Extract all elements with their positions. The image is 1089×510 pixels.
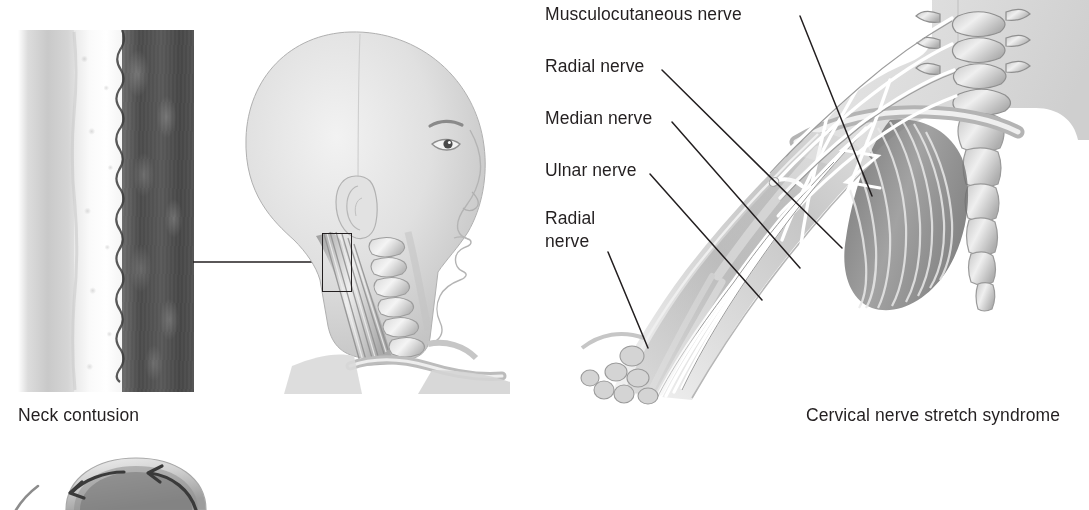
leader-radial-upper bbox=[662, 70, 842, 248]
label-musculocutaneous-nerve: Musculocutaneous nerve bbox=[545, 3, 742, 26]
label-radial-nerve-upper: Radial nerve bbox=[545, 55, 644, 78]
label-median-nerve: Median nerve bbox=[545, 107, 652, 130]
leader-musculocutaneous bbox=[800, 16, 872, 196]
label-radial-nerve-lower: Radial nerve bbox=[545, 207, 595, 254]
helmet-dome bbox=[66, 458, 206, 510]
helmet-rotation-figure bbox=[0, 452, 300, 510]
leader-ulnar bbox=[650, 174, 762, 300]
leader-radial-lower bbox=[608, 252, 648, 348]
label-ulnar-nerve: Ulnar nerve bbox=[545, 159, 637, 182]
cervical-nerve-stretch-caption: Cervical nerve stretch syndrome bbox=[806, 404, 1060, 428]
partial-neck-stroke bbox=[16, 486, 38, 510]
